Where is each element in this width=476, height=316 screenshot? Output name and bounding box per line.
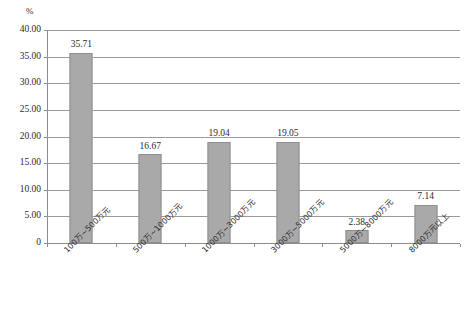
bar-value-label: 19.04 xyxy=(208,129,229,139)
y-axis-tick-label: 35.00 xyxy=(20,52,41,62)
y-axis-tick-label: 5.00 xyxy=(24,212,41,222)
bar-chart: % 05.0010.0015.0020.0025.0030.0035.0040.… xyxy=(0,0,476,316)
x-axis-tick-mark xyxy=(322,244,323,247)
x-axis-tick-mark xyxy=(185,244,186,247)
y-axis-tick-label: 30.00 xyxy=(20,79,41,89)
x-axis-tick-mark xyxy=(254,244,255,247)
x-axis-tick-mark xyxy=(460,244,461,247)
bar-value-label: 35.71 xyxy=(71,40,92,50)
bar-value-label: 16.67 xyxy=(140,142,161,152)
bar-value-label: 19.05 xyxy=(277,129,298,139)
y-axis-tick-label: 40.00 xyxy=(20,25,41,35)
x-axis-tick-mark xyxy=(391,244,392,247)
y-axis-tick-label: 0 xyxy=(36,238,41,248)
bar-value-label: 7.14 xyxy=(417,192,434,202)
x-axis-tick-mark xyxy=(116,244,117,247)
y-axis-tick-label: 15.00 xyxy=(20,158,41,168)
y-axis-tick-label: 20.00 xyxy=(20,132,41,142)
y-axis-unit-label: % xyxy=(26,6,34,16)
y-axis-tick-label: 10.00 xyxy=(20,185,41,195)
bar-group: 7.14 xyxy=(391,30,460,243)
x-axis-tick-mark xyxy=(47,244,48,247)
y-axis-tick-label: 25.00 xyxy=(20,105,41,115)
bar[interactable] xyxy=(70,53,93,243)
